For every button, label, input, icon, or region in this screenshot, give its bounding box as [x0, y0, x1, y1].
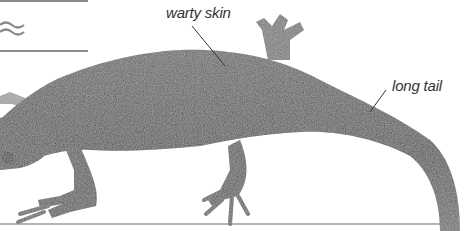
- label-warty-skin: warty skin: [166, 4, 231, 21]
- newt-body: [0, 14, 460, 231]
- newt-illustration: [0, 0, 466, 231]
- tail-leader-line: [370, 90, 386, 112]
- newt-figure: warty skin long tail: [0, 0, 466, 231]
- label-long-tail: long tail: [392, 77, 442, 94]
- wave-icon: [0, 23, 24, 35]
